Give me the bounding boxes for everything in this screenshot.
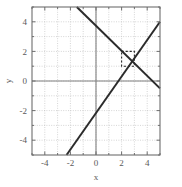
x-tick-label: -4 bbox=[41, 158, 49, 168]
y-tick-label: -2 bbox=[20, 106, 28, 116]
x-tick-labels: -4-2024 bbox=[41, 158, 150, 168]
x-tick-label: 4 bbox=[145, 158, 150, 168]
y-tick-labels: -4-2024 bbox=[20, 17, 28, 145]
y-axis-title: y bbox=[3, 78, 13, 83]
y-tick-label: 4 bbox=[23, 17, 28, 27]
y-tick-label: -4 bbox=[20, 135, 28, 145]
x-tick-label: -2 bbox=[67, 158, 75, 168]
figure-container: -4-2024 -4-2024 x y bbox=[0, 0, 182, 187]
x-axis-title: x bbox=[94, 172, 99, 182]
y-tick-label: 0 bbox=[23, 76, 28, 86]
y-tick-label: 2 bbox=[23, 47, 28, 57]
x-tick-label: 0 bbox=[94, 158, 99, 168]
x-tick-label: 2 bbox=[119, 158, 124, 168]
plot-canvas: -4-2024 -4-2024 x y bbox=[0, 0, 182, 187]
